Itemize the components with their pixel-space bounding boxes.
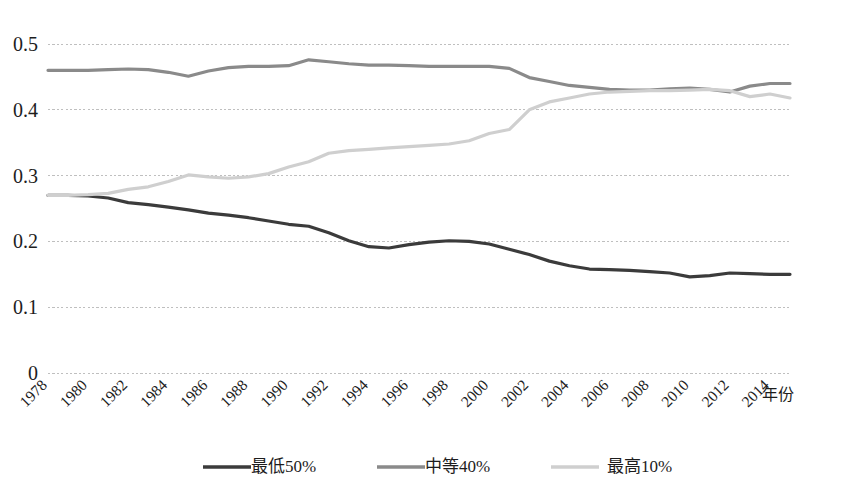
- chart-canvas: 00.10.20.30.40.5 19781980198219841986198…: [0, 0, 844, 495]
- x-tick-label: 1988: [217, 376, 251, 410]
- x-tick-label: 2012: [698, 376, 732, 410]
- series-group: [48, 60, 790, 277]
- y-tick-label: 0.5: [13, 33, 38, 55]
- x-tick-label: 2008: [618, 376, 652, 410]
- x-tick-label: 1986: [177, 376, 211, 410]
- x-tick-label: 1980: [56, 376, 90, 410]
- legend-label: 最低50%: [251, 457, 316, 476]
- y-tick-label: 0.2: [13, 230, 38, 252]
- x-tick-label: 1994: [337, 376, 371, 410]
- x-tick-label: 2004: [538, 376, 572, 410]
- legend: 最低50%中等40%最高10%: [203, 457, 672, 476]
- series-line: [48, 195, 790, 277]
- y-tick-label: 0.4: [13, 99, 38, 121]
- line-chart: 00.10.20.30.40.5 19781980198219841986198…: [0, 0, 844, 495]
- x-tick-label: 1998: [417, 376, 451, 410]
- x-tick-label: 1982: [96, 376, 130, 410]
- x-tick-label: 1990: [257, 376, 291, 410]
- x-tick-label: 1996: [377, 376, 411, 410]
- y-tick-label: 0.3: [13, 165, 38, 187]
- x-tick-label: 2002: [497, 376, 531, 410]
- x-tick-label: 2000: [457, 376, 491, 410]
- x-tick-label: 2006: [578, 376, 612, 410]
- x-tick-label: 1978: [16, 376, 50, 410]
- y-axis-labels: 00.10.20.30.40.5: [13, 33, 38, 384]
- x-tick-label: 1984: [137, 376, 171, 410]
- x-axis-labels: 1978198019821984198619881990199219941996…: [16, 376, 772, 410]
- x-axis-title: 年份: [762, 386, 794, 403]
- y-tick-label: 0.1: [13, 296, 38, 318]
- series-line: [48, 89, 790, 195]
- x-tick-label: 2010: [658, 376, 692, 410]
- legend-label: 中等40%: [425, 457, 490, 476]
- gridlines-group: [48, 44, 790, 373]
- legend-label: 最高10%: [607, 457, 672, 476]
- x-tick-label: 1992: [297, 376, 331, 410]
- series-line: [48, 60, 790, 92]
